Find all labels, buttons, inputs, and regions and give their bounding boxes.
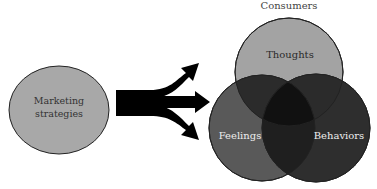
venn-label-behaviors: Behaviors — [314, 130, 364, 141]
marketing-label-line2: strategies — [35, 108, 83, 119]
consumers-title: Consumers — [261, 0, 318, 11]
venn-label-feelings: Feelings — [219, 130, 262, 141]
venn-label-thoughts: Thoughts — [266, 49, 314, 60]
branching-arrows-icon — [116, 63, 210, 140]
venn-diagram: Thoughts Feelings Behaviors — [209, 18, 370, 182]
marketing-strategies-node: Marketing strategies — [9, 66, 109, 154]
marketing-label-line1: Marketing — [34, 95, 84, 106]
diagram-canvas: Consumers Marketing strategies — [0, 0, 377, 189]
